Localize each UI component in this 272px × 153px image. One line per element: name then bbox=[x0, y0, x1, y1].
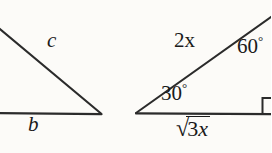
label-base-sqrt-3x: √3x bbox=[176, 116, 210, 140]
angle-30-value: 30 bbox=[161, 81, 182, 105]
label-angle-60: 60° bbox=[237, 36, 263, 57]
right-triangle-group bbox=[136, 16, 271, 115]
label-side-b: b bbox=[28, 114, 39, 135]
figure-line-art bbox=[0, 0, 271, 153]
degree-symbol-icon: ° bbox=[258, 33, 263, 48]
label-side-c: c bbox=[47, 30, 56, 51]
label-angle-30: 30° bbox=[161, 83, 187, 104]
geometry-figure: c b 2x 60° 30° √3x bbox=[0, 0, 271, 153]
radical-expression: √3x bbox=[176, 116, 210, 140]
degree-symbol-icon: ° bbox=[182, 80, 187, 95]
label-hypotenuse-2x: 2x bbox=[174, 30, 195, 51]
label-2x-coefficient: 2x bbox=[174, 28, 195, 52]
left-triangle-base bbox=[0, 113, 102, 114]
right-triangle-base bbox=[136, 113, 271, 114]
radicand-number: 3 bbox=[187, 116, 198, 141]
right-triangle-hypotenuse bbox=[136, 16, 271, 114]
right-angle-marker-icon bbox=[263, 98, 272, 113]
radicand-group: 3x bbox=[186, 116, 210, 140]
angle-60-value: 60 bbox=[237, 34, 258, 58]
radicand-variable: x bbox=[198, 116, 208, 141]
